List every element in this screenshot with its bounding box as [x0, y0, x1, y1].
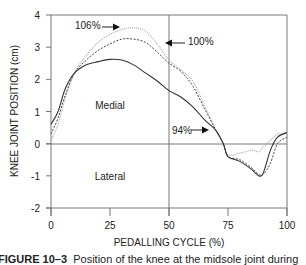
y-tick-label: 1 [34, 107, 40, 118]
annotation-94pct: 94% [172, 125, 192, 136]
y-tick-label: 2 [34, 74, 40, 85]
annotation-106pct: 106% [75, 20, 101, 31]
x-tick-label: 100 [279, 220, 296, 231]
x-ticks: 0255075100 [48, 208, 296, 231]
x-tick-label: 50 [163, 220, 175, 231]
caption-label: FIGURE 10–3 [0, 253, 67, 265]
annotation-100pct: 100% [188, 36, 214, 47]
x-axis-title: PEDALLING CYCLE (%) [114, 237, 225, 248]
region-label-medial: Medial [95, 100, 124, 111]
y-tick-label: 4 [34, 10, 40, 21]
series-annotations: 106%100%94% [75, 20, 214, 136]
caption-text: Position of the knee at the midsole join… [73, 253, 298, 265]
region-label-lateral: Lateral [95, 171, 126, 182]
y-ticks: -2-101234 [31, 10, 51, 214]
y-tick-label: 0 [34, 139, 40, 150]
arrowhead-icon [202, 127, 209, 134]
x-tick-label: 75 [222, 220, 234, 231]
x-tick-label: 25 [104, 220, 116, 231]
x-tick-label: 0 [48, 220, 54, 231]
y-tick-label: -1 [31, 171, 40, 182]
y-tick-label: -2 [31, 203, 40, 214]
region-labels: MedialLateral [95, 100, 126, 182]
y-tick-label: 3 [34, 42, 40, 53]
arrowhead-icon [113, 24, 120, 31]
figure-caption: FIGURE 10–3 Position of the knee at the … [0, 253, 298, 265]
y-axis-title: KNEE JOINT POSITION (cm) [9, 45, 20, 177]
plot-frame [46, 15, 287, 216]
